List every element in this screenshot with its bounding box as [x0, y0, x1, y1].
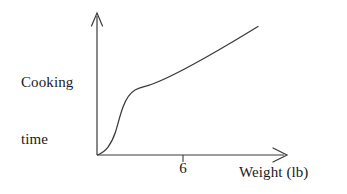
- x-axis-tick-label-6: 6: [176, 159, 190, 177]
- y-axis-label-line-1: Cooking: [21, 73, 73, 92]
- data-series-curve: [98, 27, 259, 156]
- y-axis-label: Cooking time: [21, 35, 73, 187]
- y-axis-label-line-2: time: [21, 130, 73, 149]
- chart-figure: Cooking time Weight (lb) 6: [0, 0, 347, 194]
- x-axis-label: Weight (lb): [239, 163, 308, 182]
